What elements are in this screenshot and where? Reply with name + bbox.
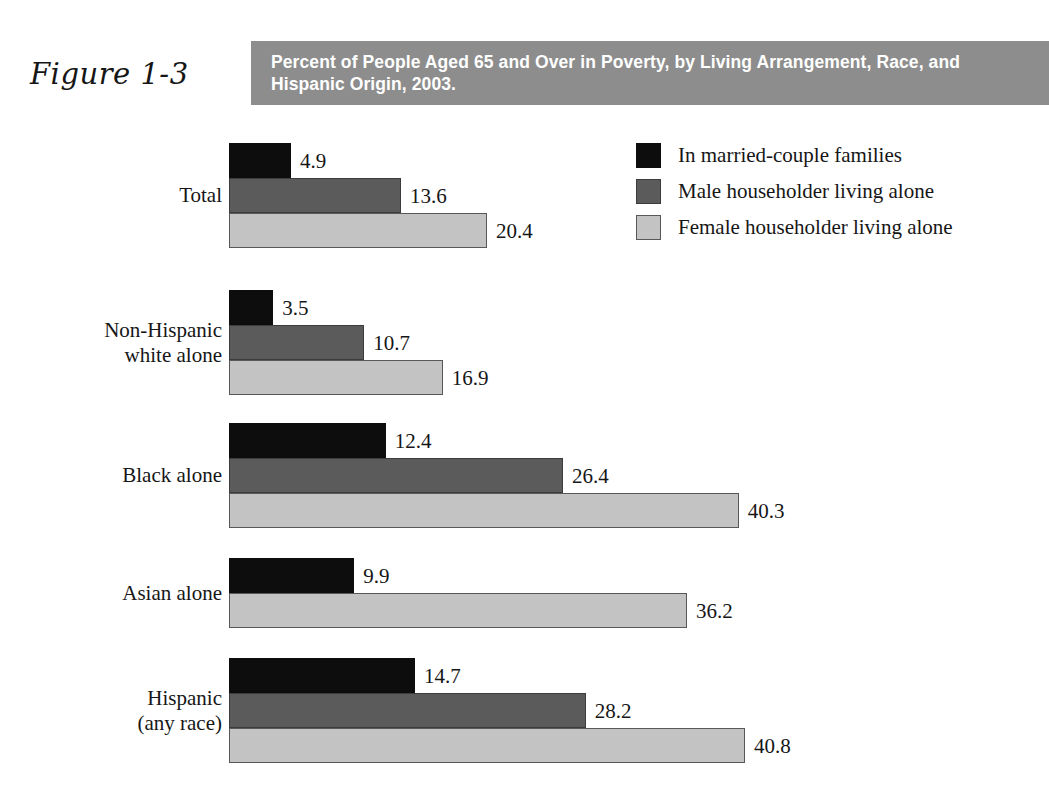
- bar-value-label: 40.8: [745, 733, 791, 758]
- bar: [229, 423, 386, 458]
- bar: [229, 360, 443, 395]
- legend-label: Male householder living alone: [661, 179, 934, 204]
- bar-value-label: 20.4: [487, 218, 533, 243]
- bar: [229, 290, 273, 325]
- chart-area: Total4.913.620.4Non-Hispanic white alone…: [0, 112, 1049, 805]
- legend-swatch-icon: [636, 143, 661, 168]
- figure-title: Percent of People Aged 65 and Over in Po…: [251, 51, 1049, 95]
- bar: [229, 728, 745, 763]
- legend-item: In married-couple families: [636, 137, 953, 173]
- bar-value-label: 28.2: [586, 698, 632, 723]
- bar: [229, 693, 586, 728]
- bar: [229, 458, 563, 493]
- bar-group: Asian alone9.936.2: [0, 558, 1049, 628]
- category-label: Hispanic (any race): [7, 658, 222, 763]
- bar-group: Non-Hispanic white alone3.510.716.9: [0, 290, 1049, 395]
- bar-value-label: 9.9: [354, 563, 389, 588]
- bar: [229, 143, 291, 178]
- category-label: Asian alone: [7, 558, 222, 628]
- legend-item: Male householder living alone: [636, 173, 953, 209]
- category-label: Black alone: [7, 423, 222, 528]
- bar-value-label: 26.4: [563, 463, 609, 488]
- bar-value-label: 12.4: [386, 428, 432, 453]
- bar-value-label: 14.7: [415, 663, 461, 688]
- bar-value-label: 13.6: [401, 183, 447, 208]
- bar: [229, 178, 401, 213]
- bar: [229, 593, 687, 628]
- legend-label: Female householder living alone: [661, 215, 953, 240]
- legend-swatch-icon: [636, 179, 661, 204]
- bar: [229, 213, 487, 248]
- figure-number-label: Figure 1-3: [30, 46, 245, 102]
- bar-value-label: 4.9: [291, 148, 326, 173]
- chart-legend: In married-couple familiesMale household…: [636, 137, 953, 245]
- bar-value-label: 16.9: [443, 365, 489, 390]
- bar-value-label: 3.5: [273, 295, 308, 320]
- figure-header: Figure 1-3 Percent of People Aged 65 and…: [0, 34, 1049, 112]
- bar-value-label: 36.2: [687, 598, 733, 623]
- bar-group: Hispanic (any race)14.728.240.8: [0, 658, 1049, 763]
- legend-item: Female householder living alone: [636, 209, 953, 245]
- bar-group: Black alone12.426.440.3: [0, 423, 1049, 528]
- bar: [229, 325, 364, 360]
- category-label: Total: [7, 143, 222, 248]
- category-label: Non-Hispanic white alone: [7, 290, 222, 395]
- bar: [229, 558, 354, 593]
- bar: [229, 493, 739, 528]
- legend-swatch-icon: [636, 215, 661, 240]
- bar-value-label: 40.3: [739, 498, 785, 523]
- figure-title-band: Percent of People Aged 65 and Over in Po…: [251, 41, 1049, 105]
- legend-label: In married-couple families: [661, 143, 902, 168]
- bar-value-label: 10.7: [364, 330, 410, 355]
- bar: [229, 658, 415, 693]
